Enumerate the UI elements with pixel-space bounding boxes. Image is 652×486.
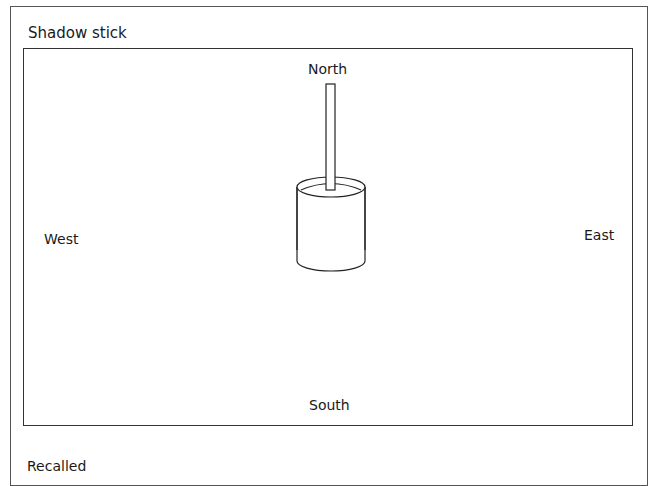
stick [326, 84, 335, 190]
footer-partial-text: Recalled [27, 458, 86, 474]
